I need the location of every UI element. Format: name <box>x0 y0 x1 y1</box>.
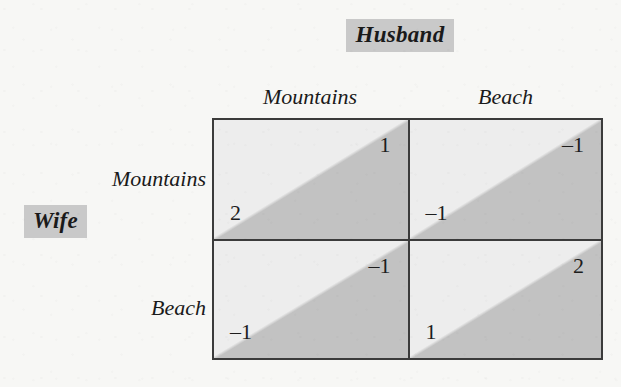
column-player-payoff: –1 <box>369 255 391 277</box>
column-player-payoff: 2 <box>573 255 584 277</box>
row-player-name: Wife <box>24 205 87 238</box>
matrix-cell-mountains-mountains: 1 2 <box>214 120 408 239</box>
row-player-payoff: –1 <box>230 321 252 343</box>
row-player-label: Wife <box>24 205 87 238</box>
row-strategy-header-beach: Beach <box>40 295 206 321</box>
column-player-label: Husband <box>320 19 480 52</box>
row-strategy-header-mountains: Mountains <box>40 166 206 192</box>
matrix-cell-beach-beach: 2 1 <box>408 239 602 358</box>
row-player-payoff: 2 <box>230 202 241 224</box>
payoff-matrix: 1 2 –1 –1 –1 –1 2 1 <box>212 118 603 360</box>
column-player-name: Husband <box>346 19 453 52</box>
matrix-cell-beach-mountains: –1 –1 <box>214 239 408 358</box>
column-strategy-header-beach: Beach <box>408 84 603 110</box>
column-strategy-header-mountains: Mountains <box>212 84 408 110</box>
row-player-payoff: 1 <box>426 321 437 343</box>
row-player-payoff: –1 <box>426 202 448 224</box>
matrix-cell-mountains-beach: –1 –1 <box>408 120 602 239</box>
column-player-payoff: –1 <box>562 134 584 156</box>
column-player-payoff: 1 <box>380 134 391 156</box>
